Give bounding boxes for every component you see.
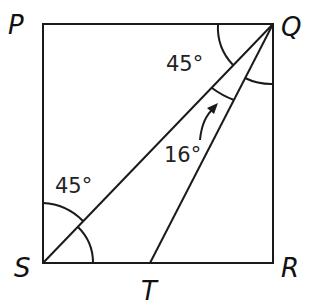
- diagonal-sq: [43, 24, 273, 263]
- angle-label-psq: 45°: [55, 174, 92, 198]
- arc-sqt: [212, 88, 234, 100]
- label-s: S: [14, 253, 31, 283]
- angle-label-pqs: 45°: [166, 52, 203, 76]
- label-q: Q: [281, 12, 301, 42]
- arc-pqs: [218, 24, 233, 65]
- label-t: T: [141, 276, 159, 306]
- arc-tqr: [245, 78, 273, 84]
- arc-psq: [43, 203, 83, 221]
- arrow-curve: [200, 108, 214, 140]
- arc-sqr: [78, 227, 93, 263]
- label-p: P: [8, 10, 24, 40]
- geometry-diagram: P Q R S T 45° 45° 16°: [0, 0, 318, 306]
- label-r: R: [281, 253, 299, 283]
- angle-label-sqt: 16°: [164, 143, 201, 167]
